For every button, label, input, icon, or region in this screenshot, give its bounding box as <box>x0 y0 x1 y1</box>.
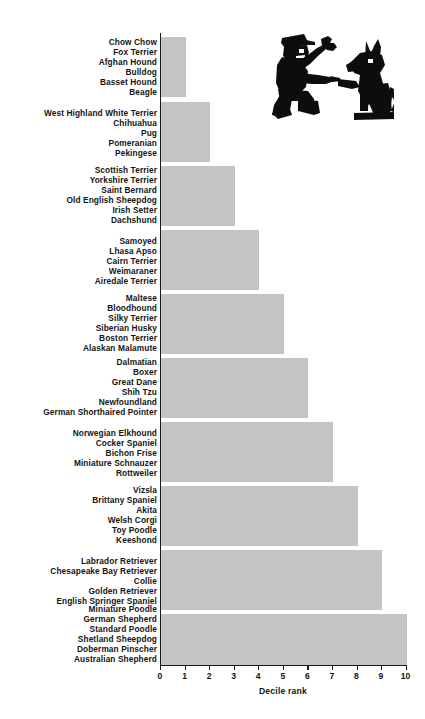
bar-decile-10 <box>161 614 407 665</box>
breed-label: German Shorthaired Pointer <box>0 407 157 417</box>
breed-label: Irish Setter <box>0 205 157 215</box>
x-tick-label-8: 8 <box>344 671 370 681</box>
x-tick-2 <box>209 665 210 670</box>
breed-label: Collie <box>0 576 157 586</box>
breed-label: Bloodhound <box>0 303 157 313</box>
breed-label: Rottweiler <box>0 468 157 478</box>
breed-label: Keeshond <box>0 535 157 545</box>
x-tick-4 <box>258 665 259 670</box>
x-tick-label-0: 0 <box>147 671 173 681</box>
breed-label: Great Dane <box>0 377 157 387</box>
x-tick-label-5: 5 <box>270 671 296 681</box>
breed-group-labels-10: Miniature Poodle German Shepherd Standar… <box>0 604 157 665</box>
breed-group-labels-8: Vizsla Brittany Spaniel Akita Welsh Corg… <box>0 485 157 546</box>
breed-label: Saint Bernard <box>0 185 157 195</box>
breed-label: Alaskan Malamute <box>0 343 157 353</box>
breed-label: Miniature Schnauzer <box>0 458 157 468</box>
x-axis-title: Decile rank <box>160 686 406 696</box>
breed-label: Labrador Retriever <box>0 556 157 566</box>
breed-label: Norwegian Elkhound <box>0 428 157 438</box>
breed-label: West Highland White Terrier <box>0 108 157 118</box>
breed-label: Brittany Spaniel <box>0 495 157 505</box>
x-tick-7 <box>332 665 333 670</box>
breed-group-labels-3: Scottish Terrier Yorkshire Terrier Saint… <box>0 165 157 226</box>
breed-label: Weimaraner <box>0 266 157 276</box>
breed-label: Lhasa Apso <box>0 246 157 256</box>
breed-group-labels-4: Samoyed Lhasa Apso Cairn Terrier Weimara… <box>0 236 157 286</box>
breed-label: Boxer <box>0 367 157 377</box>
breed-label: Dalmatian <box>0 357 157 367</box>
x-tick-label-6: 6 <box>294 671 320 681</box>
breed-label: Samoyed <box>0 236 157 246</box>
breed-label: Scottish Terrier <box>0 165 157 175</box>
breed-label: Boston Terrier <box>0 333 157 343</box>
breed-label: Afghan Hound <box>0 57 157 67</box>
x-tick-0 <box>160 665 161 670</box>
breed-label: Pug <box>0 128 157 138</box>
bar-decile-8 <box>161 486 358 546</box>
breed-label: Doberman Pinscher <box>0 644 157 654</box>
x-tick-1 <box>185 665 186 670</box>
breed-label: Old English Sheepdog <box>0 195 157 205</box>
breed-group-labels-6: Dalmatian Boxer Great Dane Shih Tzu Newf… <box>0 357 157 418</box>
breed-label: Toy Poodle <box>0 525 157 535</box>
breed-label: Dachshund <box>0 215 157 225</box>
breed-label: Shetland Sheepdog <box>0 634 157 644</box>
breed-label: Akita <box>0 505 157 515</box>
breed-label: German Shepherd <box>0 614 157 624</box>
breed-group-labels-5: Maltese Bloodhound Silky Terrier Siberia… <box>0 293 157 354</box>
bar-decile-3 <box>161 166 235 226</box>
breed-label: Chihuahua <box>0 118 157 128</box>
breed-label: Fox Terrier <box>0 47 157 57</box>
breed-label: Vizsla <box>0 485 157 495</box>
breed-label: Australian Shepherd <box>0 654 157 664</box>
breed-label: Silky Terrier <box>0 313 157 323</box>
bar-decile-9 <box>161 550 382 610</box>
x-tick-8 <box>357 665 358 670</box>
breed-label: Pekingese <box>0 148 157 158</box>
x-tick-9 <box>381 665 382 670</box>
breed-label: Maltese <box>0 293 157 303</box>
x-tick-10 <box>406 665 407 670</box>
x-tick-label-3: 3 <box>221 671 247 681</box>
breed-label: Airedale Terrier <box>0 276 157 286</box>
breed-label: Welsh Corgi <box>0 515 157 525</box>
breed-label: Cocker Spaniel <box>0 438 157 448</box>
breed-label: Newfoundland <box>0 397 157 407</box>
breed-group-labels-9: Labrador Retriever Chesapeake Bay Retrie… <box>0 556 157 606</box>
person-training-dog-silhouette-icon <box>268 31 394 123</box>
breed-label: Yorkshire Terrier <box>0 175 157 185</box>
bar-decile-5 <box>161 294 284 354</box>
breed-group-labels-7: Norwegian Elkhound Cocker Spaniel Bichon… <box>0 428 157 478</box>
breed-label: Basset Hound <box>0 77 157 87</box>
x-tick-label-9: 9 <box>368 671 394 681</box>
breed-label: Golden Retriever <box>0 586 157 596</box>
x-tick-6 <box>307 665 308 670</box>
decile-rank-bar-chart: Chow Chow Fox Terrier Afghan Hound Bulld… <box>0 0 425 719</box>
x-tick-label-10: 10 <box>393 671 419 681</box>
bar-decile-6 <box>161 358 308 418</box>
bar-decile-2 <box>161 102 210 162</box>
x-tick-5 <box>283 665 284 670</box>
breed-label: Chow Chow <box>0 37 157 47</box>
breed-label: Beagle <box>0 87 157 97</box>
bar-decile-4 <box>161 230 259 290</box>
breed-label: Siberian Husky <box>0 323 157 333</box>
x-tick-3 <box>234 665 235 670</box>
bar-decile-7 <box>161 422 333 482</box>
breed-label: Standard Poodle <box>0 624 157 634</box>
breed-label: Bichon Frise <box>0 448 157 458</box>
x-tick-label-1: 1 <box>172 671 198 681</box>
x-tick-label-2: 2 <box>196 671 222 681</box>
breed-label: Bulldog <box>0 67 157 77</box>
breed-label: Shih Tzu <box>0 387 157 397</box>
breed-group-labels-2: West Highland White Terrier Chihuahua Pu… <box>0 108 157 158</box>
breed-label: Chesapeake Bay Retriever <box>0 566 157 576</box>
breed-label: Pomeranian <box>0 138 157 148</box>
breed-label: Miniature Poodle <box>0 604 157 614</box>
x-tick-label-4: 4 <box>245 671 271 681</box>
breed-label: Cairn Terrier <box>0 256 157 266</box>
x-tick-label-7: 7 <box>319 671 345 681</box>
breed-group-labels-1: Chow Chow Fox Terrier Afghan Hound Bulld… <box>0 37 157 98</box>
bar-decile-1 <box>161 37 186 97</box>
